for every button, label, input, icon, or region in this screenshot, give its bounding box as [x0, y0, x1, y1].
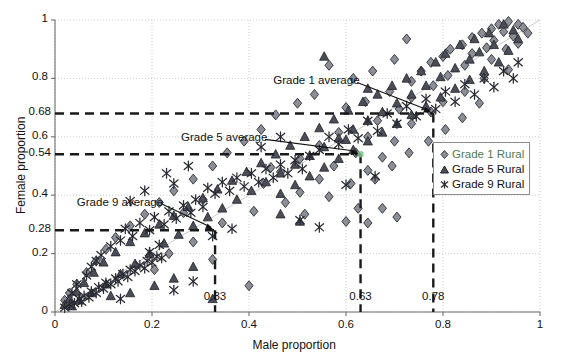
- data-point-grade-9: [170, 179, 178, 189]
- legend-label-grade-1: Grade 1 Rural: [452, 148, 524, 160]
- data-point-grade-9: [354, 133, 362, 143]
- data-point-grade-1: [364, 165, 372, 175]
- data-point-grade-1: [364, 218, 372, 228]
- data-point-grade-5: [315, 123, 324, 132]
- x-tick-label: 1: [524, 318, 556, 330]
- data-point-grade-9: [240, 182, 248, 192]
- data-point-grade-5: [203, 212, 212, 221]
- data-point-grade-5: [276, 209, 285, 218]
- data-point-grade-9: [204, 183, 212, 193]
- data-point-grade-5: [198, 193, 207, 202]
- data-point-grade-1: [293, 98, 301, 108]
- annotation-label: Grade 5 average: [181, 131, 267, 143]
- legend: Grade 1 Rural Grade 5 Rural Grade 9 Rura…: [433, 142, 530, 195]
- guide-label-y: 0.54: [0, 146, 51, 158]
- data-point-grade-9: [315, 222, 323, 232]
- data-point-grade-1: [218, 218, 226, 228]
- data-point-grade-9: [150, 212, 158, 222]
- data-point-grade-1: [390, 136, 398, 146]
- data-point-grade-5: [169, 274, 178, 283]
- data-point-grade-1: [393, 212, 401, 222]
- data-point-grade-9: [276, 160, 284, 170]
- x-tick-label: 0.2: [136, 318, 168, 330]
- data-point-grade-5: [451, 84, 460, 93]
- data-point-grade-1: [245, 281, 253, 291]
- legend-label-grade-9: Grade 9 Rural: [452, 178, 524, 190]
- data-point-grade-5: [436, 72, 445, 81]
- legend-label-grade-5: Grade 5 Rural: [452, 163, 524, 175]
- data-point-grade-1: [378, 152, 386, 162]
- data-point-grade-5: [218, 204, 227, 213]
- data-point-grade-9: [514, 58, 522, 68]
- data-point-grade-1: [141, 209, 149, 219]
- annotation-label: Grade 9 average: [77, 196, 163, 208]
- data-point-grade-9: [162, 168, 170, 178]
- data-point-grade-9: [269, 173, 277, 183]
- data-point-grade-1: [403, 34, 411, 44]
- data-point-grade-5: [126, 288, 135, 297]
- data-point-grade-1: [390, 54, 398, 64]
- data-point-grade-5: [276, 189, 285, 198]
- data-point-grade-9: [422, 94, 430, 104]
- data-point-grade-9: [184, 161, 192, 171]
- guide-label-x: 0.63: [344, 290, 378, 302]
- annotation-label: Grade 1 average: [273, 74, 359, 86]
- data-point-grade-9: [298, 164, 306, 174]
- y-tick-label: 0.8: [0, 70, 48, 82]
- data-point-grade-5: [189, 262, 198, 271]
- data-point-grade-5: [388, 81, 397, 90]
- data-point-grade-5: [80, 278, 89, 287]
- data-point-grade-5: [150, 281, 159, 290]
- x-tick-label: 0.4: [233, 318, 265, 330]
- guide-label-x: 0.33: [198, 290, 232, 302]
- data-point-grade-5: [451, 63, 460, 72]
- y-tick-label: 0.4: [0, 187, 48, 199]
- legend-item-grade-9[interactable]: Grade 9 Rural: [438, 176, 524, 191]
- legend-item-grade-5[interactable]: Grade 5 Rural: [438, 161, 524, 176]
- data-point-grade-5: [475, 47, 484, 56]
- data-point-grade-1: [223, 148, 231, 158]
- data-point-grade-9: [189, 277, 197, 287]
- guide-label-y: 0.68: [0, 105, 51, 117]
- data-point-grade-1: [325, 60, 333, 70]
- data-point-grade-1: [441, 125, 449, 135]
- data-point-grade-1: [272, 110, 280, 120]
- x-tick-label: 0.6: [330, 318, 362, 330]
- data-point-grade-9: [257, 142, 265, 152]
- data-point-grade-1: [487, 54, 495, 64]
- data-point-grade-1: [112, 233, 120, 243]
- data-point-grade-9: [170, 285, 178, 295]
- data-point-grade-1: [325, 192, 333, 202]
- data-point-grade-9: [218, 177, 226, 187]
- data-point-grade-9: [141, 186, 149, 196]
- data-point-grade-5: [436, 93, 445, 102]
- data-point-grade-1: [378, 203, 386, 213]
- data-point-grade-9: [136, 218, 144, 228]
- x-marker-icon: [438, 177, 451, 190]
- x-tick-label: 0: [39, 318, 71, 330]
- data-point-grade-5: [189, 221, 198, 230]
- triangle-marker-icon: [438, 162, 451, 175]
- data-point-grade-1: [281, 198, 289, 208]
- data-point-grade-1: [315, 174, 323, 184]
- data-point-grade-5: [407, 90, 416, 99]
- data-point-grade-5: [291, 180, 300, 189]
- data-point-grade-1: [189, 174, 197, 184]
- data-point-grade-1: [458, 113, 466, 123]
- legend-item-grade-1[interactable]: Grade 1 Rural: [438, 146, 524, 161]
- x-axis-title: Male proportion: [253, 338, 336, 352]
- diamond-marker-icon: [438, 147, 451, 160]
- data-point-grade-1: [475, 98, 483, 108]
- data-point-grade-1: [342, 216, 350, 226]
- data-point-grade-1: [165, 249, 173, 259]
- data-point-grade-9: [441, 87, 449, 97]
- annotation-arrowhead: [205, 223, 213, 229]
- data-point-grade-1: [189, 237, 197, 247]
- data-point-grade-5: [155, 220, 164, 229]
- y-tick-label: 1: [0, 12, 48, 24]
- data-point-grade-1: [369, 66, 377, 76]
- data-point-grade-9: [470, 90, 478, 100]
- data-point-grade-1: [424, 136, 432, 146]
- data-point-grade-5: [329, 114, 338, 123]
- data-point-grade-9: [228, 224, 236, 234]
